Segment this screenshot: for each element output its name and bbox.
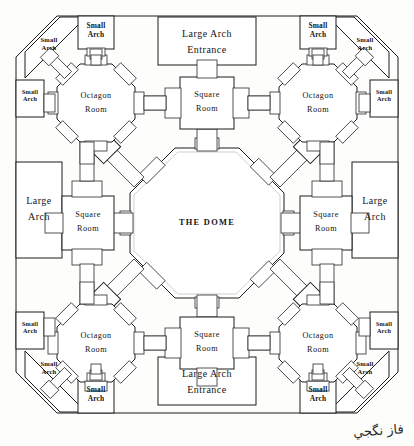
square-room-top-corridor-n	[197, 60, 217, 78]
bl-stem-left	[44, 318, 55, 336]
link-bl-to-square-bottom	[144, 336, 166, 350]
square-room-bottom-corridor-n	[197, 295, 217, 317]
tl-stem-left	[44, 94, 55, 112]
small-arch-top-right-block	[300, 16, 336, 49]
square-room-top-port-e	[233, 88, 249, 118]
link-br-to-square-right	[320, 282, 334, 304]
bl-stem-b	[91, 364, 101, 374]
square-room-right-corridor-e	[351, 213, 369, 233]
large-arch-left-block	[16, 162, 62, 258]
small-arch-right-upper-block	[370, 80, 398, 117]
small-arch-top-left-block	[78, 16, 114, 49]
link-tl-to-square-left	[80, 142, 94, 164]
square-room-bottom-corridor-s	[197, 368, 217, 386]
square-room-right-corridor-w	[281, 213, 301, 233]
small-arch-left-lower-block	[16, 312, 44, 349]
small-arch-right-lower-block	[370, 312, 398, 349]
br-stem-right	[359, 318, 370, 336]
square-room-bottom-block	[180, 317, 234, 369]
square-room-left-port-n	[72, 181, 102, 197]
link-tl-to-square-top	[144, 96, 166, 110]
square-room-left-corridor-w	[45, 213, 63, 233]
square-room-top-block	[180, 77, 234, 129]
link-tr-to-square-top	[248, 96, 270, 110]
square-room-top-port-w	[165, 88, 181, 118]
square-room-bottom-port-e	[233, 328, 249, 358]
link-bl-to-square-left	[80, 282, 94, 304]
br-stem-b	[313, 364, 323, 374]
square-room-top-corridor-s	[197, 129, 217, 151]
link-br-to-square-bottom	[248, 336, 270, 350]
tr-stem-b	[313, 55, 323, 65]
square-room-left-block	[62, 196, 114, 250]
square-room-bottom-port-w	[165, 328, 181, 358]
link-tr-to-square-right	[320, 142, 334, 164]
square-room-right-port-s	[312, 249, 342, 265]
square-room-right-port-n	[312, 181, 342, 197]
floor-plan-drawing: THE DOME Large Arch Entrance Large Arch …	[0, 0, 414, 446]
tl-stem-b	[91, 55, 101, 65]
large-arch-right-block	[352, 162, 398, 258]
square-room-left-corridor-e	[113, 213, 133, 233]
tr-stem-right	[359, 94, 370, 112]
floor-plan-vector	[0, 0, 414, 446]
square-room-left-port-s	[72, 249, 102, 265]
entrance-top-block	[158, 17, 256, 65]
small-arch-left-upper-block	[16, 80, 44, 117]
square-room-right-block	[300, 196, 352, 250]
